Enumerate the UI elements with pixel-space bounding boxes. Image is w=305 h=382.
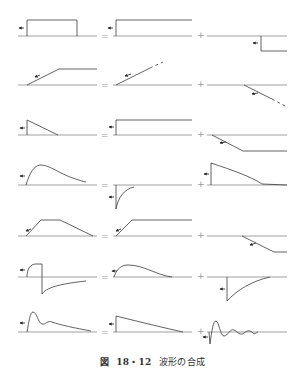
row-6-part2-waveform [207, 277, 287, 301]
row-5-total-waveform [18, 220, 97, 236]
row-4-part1-waveform [109, 185, 192, 209]
plus-operator-row-4: + [197, 180, 205, 189]
row-5-part2-waveform [207, 236, 287, 252]
row-1-part1-waveform [108, 20, 192, 36]
plus-operator-row-5: + [197, 231, 205, 240]
equals-operator-row-3: = [101, 131, 109, 140]
plus-operator-row-7: + [197, 327, 205, 336]
row-2-part2-waveform [207, 85, 287, 107]
row-4-part2-waveform [204, 163, 287, 185]
plus-operator-row-6: + [197, 272, 205, 281]
caption-prefix: 図 [100, 357, 109, 367]
row-3 [18, 120, 287, 151]
equals-operator-row-4: = [101, 181, 109, 190]
waveform-composition-figure: = + = + = + = + = + = + = + 図 18・12 波形の合… [0, 0, 305, 382]
row-4-total-waveform [18, 165, 97, 185]
row-7-part2-waveform [203, 321, 287, 344]
row-6 [18, 264, 287, 301]
equals-operator-row-5: = [101, 232, 109, 241]
row-3-total-waveform [18, 120, 97, 135]
waveform-diagram [0, 0, 305, 350]
row-1-part2-waveform [207, 36, 287, 51]
row-4 [18, 163, 287, 209]
row-7-part1-waveform [109, 316, 192, 332]
plus-operator-row-1: + [197, 31, 205, 40]
caption-number: 18・12 [116, 357, 152, 367]
row-3-part1-waveform [109, 120, 192, 135]
plus-operator-row-2: + [197, 80, 205, 89]
equals-operator-row-2: = [101, 81, 109, 90]
figure-caption: 図 18・12 波形の合成 [0, 355, 305, 368]
row-1 [18, 20, 287, 51]
row-5-part1-waveform [113, 220, 192, 236]
row-2-total-waveform [18, 69, 97, 85]
row-2 [18, 62, 287, 107]
caption-title: 波形の合成 [159, 357, 206, 367]
row-3-part2-waveform [207, 135, 287, 151]
row-5 [18, 220, 287, 252]
row-6-total-waveform [18, 264, 97, 294]
equals-operator-row-6: = [101, 273, 109, 282]
plus-operator-row-3: + [197, 130, 205, 139]
equals-operator-row-7: = [101, 328, 109, 337]
row-7 [18, 312, 287, 344]
row-2-part1-waveform [113, 62, 192, 85]
row-1-total-waveform [18, 20, 97, 36]
row-6-part1-waveform [112, 265, 192, 277]
row-7-total-waveform [18, 312, 97, 332]
equals-operator-row-1: = [101, 32, 109, 41]
